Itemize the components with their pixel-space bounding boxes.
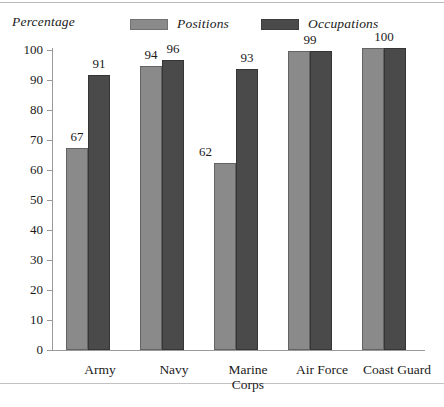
bar-marine-occupations [236,69,258,350]
bar-coastguard-occupations [384,48,406,350]
y-tick-label-80: 80 [30,102,43,118]
y-tick-label-90: 90 [30,72,43,88]
bar-airforce-positions [288,51,310,350]
plot-area: 100 90 80 70 60 50 40 30 20 10 0 [52,48,425,351]
bar-chart-figure: Percentage Positions Occupations 100 90 … [0,4,444,380]
x-label-coast-guard: Coast Guard [346,362,444,377]
legend-swatch-occupations [261,19,299,30]
chart-legend: Positions Occupations [130,16,379,32]
bar-wrap-airforce-positions [288,51,310,350]
bar-group-marine-corps: 62 93 [214,69,258,350]
y-tick-label-70: 70 [30,132,43,148]
bar-coastguard-positions [362,48,384,350]
bar-value-navy-positions: 94 [145,47,158,63]
bar-value-coast-guard: 100 [374,29,394,45]
bar-group-navy: 94 96 [140,60,184,350]
bar-airforce-occupations [310,51,332,350]
y-axis-title: Percentage [12,14,75,30]
bar-marine-positions [214,163,236,350]
bar-group-army: 67 91 [66,75,110,350]
bar-wrap-coastguard-occupations [384,48,406,350]
y-tick-label-100: 100 [24,42,44,58]
bar-wrap-navy-occupations: 96 [162,60,184,350]
legend-item-positions: Positions [130,16,229,32]
bar-value-army-occupations: 91 [93,56,106,72]
bar-value-marine-positions: 62 [199,144,212,160]
bar-group-coast-guard: 100 [362,48,406,350]
bar-wrap-marine-occupations: 93 [236,69,258,350]
legend-label-positions: Positions [177,16,229,32]
bar-value-marine-occupations: 93 [241,50,254,66]
y-tick-label-20: 20 [30,282,43,298]
page-rule-top [0,2,444,3]
bar-navy-positions [140,66,162,350]
y-axis-line [52,48,53,351]
legend-item-occupations: Occupations [261,16,378,32]
y-tick-label-60: 60 [30,162,43,178]
y-tick-label-50: 50 [30,192,43,208]
legend-label-occupations: Occupations [308,16,378,32]
y-tick-label-10: 10 [30,312,43,328]
bar-wrap-army-positions: 67 [66,148,88,350]
bar-value-navy-occupations: 96 [167,41,180,57]
bar-army-positions [66,148,88,350]
bar-wrap-army-occupations: 91 [88,75,110,350]
y-tick-label-40: 40 [30,222,43,238]
bar-navy-occupations [162,60,184,350]
bar-value-air-force: 99 [304,32,317,48]
legend-swatch-positions [130,19,168,30]
bar-group-air-force: 99 [288,51,332,350]
bar-wrap-airforce-occupations [310,51,332,350]
y-tick-label-30: 30 [30,252,43,268]
y-tick-label-0: 0 [37,342,44,358]
bar-wrap-coastguard-positions [362,48,384,350]
bar-wrap-navy-positions: 94 [140,66,162,350]
x-axis-line [52,350,425,351]
bar-wrap-marine-positions: 62 [214,163,236,350]
bar-value-army-positions: 67 [71,129,84,145]
bar-army-occupations [88,75,110,350]
